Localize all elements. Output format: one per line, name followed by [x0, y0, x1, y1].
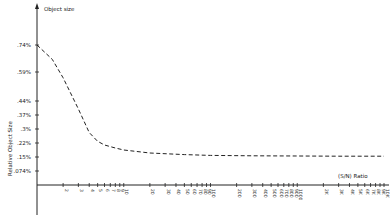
y-tick-label: .15% [17, 154, 31, 160]
y-tick-label: .37% [17, 112, 31, 118]
x-tick-label: 5 [98, 189, 103, 192]
y-tick-label: .074% [14, 168, 31, 174]
x-tick-label: 7 [111, 189, 116, 192]
x-tick-label: 60 [192, 189, 197, 195]
x-tick-label: 500 [272, 189, 277, 198]
x-tick-label: 50 [185, 189, 190, 195]
x-tick-label: 30 [166, 189, 171, 195]
y-axis-arrow-icon [35, 3, 39, 9]
y-ticks: .74%.59%.44%.37%.3%.22%.15%.074% [14, 42, 39, 174]
x-tick-label: 2 [64, 189, 69, 192]
x-tick-label: 200 [237, 189, 242, 198]
x-ticks: 2345678910203040506070809010020030040050… [63, 183, 389, 201]
x-tick-label: 10 [124, 189, 129, 195]
x-tick-label: 6K [365, 189, 370, 196]
x-tick-label: 800 [289, 189, 294, 198]
chart: Object size Relative Object Size (S/N) R… [0, 0, 391, 220]
x-tick-label: 4K [350, 189, 355, 196]
y-tick-label: .3% [21, 126, 31, 132]
x-tick-label: 6 [105, 189, 110, 192]
x-tick-label: 20 [150, 189, 155, 195]
x-tick-label: 400 [263, 189, 268, 198]
x-tick-label: 600 [279, 189, 284, 198]
x-tick-label: 3K [339, 189, 344, 196]
x-tick-label: 100 [211, 189, 216, 198]
y-axis-top-label: Object size [44, 6, 75, 13]
x-tick-label: 8 [116, 189, 121, 192]
x-tick-label: 2K [324, 189, 329, 196]
x-tick-label: 3 [79, 189, 84, 192]
x-tick-label: 70 [198, 189, 203, 195]
y-tick-label: .44% [17, 98, 31, 104]
x-tick-label: 10K [385, 189, 390, 199]
x-tick-label: 1000 [298, 189, 303, 201]
x-tick-label: 4 [90, 189, 95, 192]
x-tick-label: 7K [371, 189, 376, 196]
x-tick-label: 300 [252, 189, 257, 198]
x-axis-title: (S/N) Ratio [338, 173, 368, 179]
x-tick-label: 8K [376, 189, 381, 196]
x-tick-label: 700 [284, 189, 289, 198]
y-tick-label: .22% [17, 140, 31, 146]
data-series-line [37, 45, 384, 156]
x-tick-label: 5K [358, 189, 363, 196]
y-tick-label: .59% [17, 69, 31, 75]
y-tick-label: .74% [17, 42, 31, 48]
x-tick-label: 40 [176, 189, 181, 195]
x-tick-label: 80 [203, 189, 208, 195]
